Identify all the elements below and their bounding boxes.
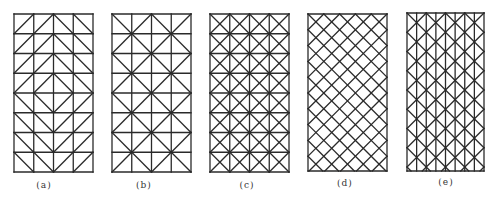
caption-b: (b) — [136, 180, 152, 190]
mesh-panel-c — [210, 14, 289, 172]
caption-a: (a) — [36, 180, 51, 190]
mesh-xcell-graphic — [210, 14, 289, 172]
mesh-diagonal-graphic — [308, 14, 387, 171]
mesh-strips-graphic — [407, 13, 484, 171]
caption-d: (d) — [337, 178, 353, 188]
mesh-panel-e — [407, 13, 484, 171]
mesh-diamond-graphic — [14, 14, 93, 172]
mesh-panel-d — [308, 14, 387, 171]
caption-c: (c) — [239, 180, 254, 190]
mesh-panel-b — [112, 14, 191, 172]
mesh-panel-a — [14, 14, 93, 172]
mesh-unionjack-graphic — [112, 14, 191, 172]
caption-e: (e) — [438, 177, 453, 187]
